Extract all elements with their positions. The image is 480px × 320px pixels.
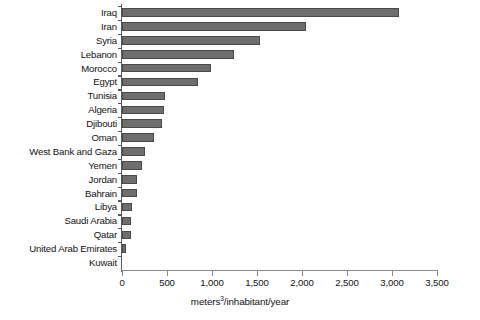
bar <box>122 161 142 170</box>
category-label: Jordan <box>0 173 117 187</box>
bar-row <box>122 159 437 173</box>
water-availability-bar-chart: IraqIranSyriaLebanonMoroccoEgyptTunisiaA… <box>0 0 480 320</box>
x-axis-tick-label: 3,000 <box>380 277 404 288</box>
y-axis-tick <box>118 6 122 7</box>
category-label: Djibouti <box>0 117 117 131</box>
category-label: Iran <box>0 20 117 34</box>
bar-row <box>122 34 437 48</box>
category-label: Kuwait <box>0 256 117 270</box>
bar-row <box>122 6 437 20</box>
y-axis-tick <box>118 214 122 215</box>
bar-row <box>122 20 437 34</box>
y-axis-tick <box>118 145 122 146</box>
y-axis-tick <box>118 62 122 63</box>
bar-row <box>122 200 437 214</box>
bar-row <box>122 75 437 89</box>
bar <box>122 106 164 115</box>
plot-area <box>122 6 437 270</box>
x-axis-tick <box>392 271 393 276</box>
category-axis-labels: IraqIranSyriaLebanonMoroccoEgyptTunisiaA… <box>0 6 117 270</box>
y-axis-tick <box>118 256 122 257</box>
category-label: Yemen <box>0 159 117 173</box>
bar <box>122 189 137 198</box>
bar <box>122 92 165 101</box>
category-label: Tunisia <box>0 89 117 103</box>
bar <box>122 244 126 253</box>
bar <box>122 8 399 17</box>
x-axis-title-suffix: /inhabitant/year <box>224 296 289 307</box>
x-axis-tick <box>437 271 438 276</box>
category-label: Iraq <box>0 6 117 20</box>
bar-row <box>122 256 437 270</box>
bar <box>122 203 132 212</box>
x-axis-title-prefix: meters <box>191 296 220 307</box>
bar-row <box>122 62 437 76</box>
category-label: Syria <box>0 34 117 48</box>
y-axis-tick <box>118 228 122 229</box>
bar-rows <box>122 6 437 270</box>
x-axis-tick-label: 1,000 <box>200 277 224 288</box>
bar <box>122 119 162 128</box>
y-axis-tick <box>118 20 122 21</box>
bar-row <box>122 145 437 159</box>
category-label: Algeria <box>0 103 117 117</box>
y-axis-tick <box>118 48 122 49</box>
y-axis-tick <box>118 200 122 201</box>
category-label: Bahrain <box>0 187 117 201</box>
y-axis-tick <box>118 159 122 160</box>
bar-row <box>122 214 437 228</box>
x-axis-tick <box>167 271 168 276</box>
y-axis-tick <box>118 187 122 188</box>
x-axis-tick <box>122 271 123 276</box>
y-axis-tick <box>118 103 122 104</box>
bar <box>122 147 145 156</box>
x-axis-tick-label: 2,500 <box>335 277 359 288</box>
y-axis-tick <box>118 34 122 35</box>
x-axis-tick-label: 500 <box>159 277 175 288</box>
bar <box>122 133 154 142</box>
x-axis-tick-labels: 05001,0001,5002,0002,5003,0003,500 <box>0 277 480 291</box>
x-axis-tick-label: 0 <box>119 277 124 288</box>
category-label: Egypt <box>0 75 117 89</box>
bar-row <box>122 173 437 187</box>
bar-row <box>122 89 437 103</box>
bar <box>122 217 131 226</box>
bar-row <box>122 187 437 201</box>
x-axis-tick <box>257 271 258 276</box>
bar-row <box>122 131 437 145</box>
y-axis-tick <box>118 89 122 90</box>
bar-row <box>122 117 437 131</box>
bar <box>122 175 137 184</box>
x-axis-title: meters3/inhabitant/year <box>0 296 480 307</box>
bar <box>122 64 211 73</box>
bar <box>122 78 198 87</box>
bar <box>122 50 234 59</box>
bar-row <box>122 242 437 256</box>
x-axis-tick-label: 3,500 <box>425 277 449 288</box>
x-axis-tick <box>347 271 348 276</box>
category-label: Saudi Arabia <box>0 214 117 228</box>
y-axis-tick <box>118 131 122 132</box>
y-axis-tick <box>118 75 122 76</box>
x-axis-tick-label: 1,500 <box>245 277 269 288</box>
bar <box>122 231 131 240</box>
bar-row <box>122 228 437 242</box>
category-label: United Arab Emirates <box>0 242 117 256</box>
bar-row <box>122 103 437 117</box>
bar <box>122 22 306 31</box>
category-label: Qatar <box>0 228 117 242</box>
category-label: West Bank and Gaza <box>0 145 117 159</box>
category-label: Libya <box>0 200 117 214</box>
bar-row <box>122 48 437 62</box>
x-axis-tick-label: 2,000 <box>290 277 314 288</box>
y-axis-tick <box>118 117 122 118</box>
bar <box>122 36 260 45</box>
x-axis-tick <box>212 271 213 276</box>
category-label: Morocco <box>0 62 117 76</box>
category-label: Lebanon <box>0 48 117 62</box>
x-axis-tick <box>302 271 303 276</box>
y-axis-tick <box>118 173 122 174</box>
y-axis-tick <box>118 242 122 243</box>
category-label: Oman <box>0 131 117 145</box>
